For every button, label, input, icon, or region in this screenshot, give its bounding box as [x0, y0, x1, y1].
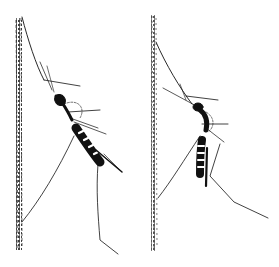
illustration	[0, 0, 279, 267]
mosquito-illustration	[0, 0, 279, 267]
right-mosquito	[156, 42, 268, 218]
right-surface	[151, 15, 157, 251]
left-surface	[16, 18, 22, 250]
left-mosquito	[22, 17, 122, 254]
